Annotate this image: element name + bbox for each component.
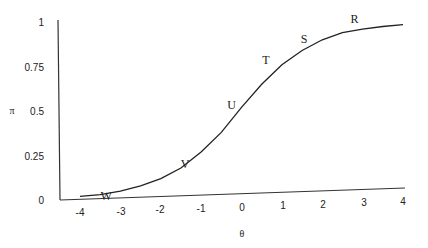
y-tick: 0.5 bbox=[30, 106, 44, 117]
x-tick: 2 bbox=[320, 199, 326, 210]
x-tick: 3 bbox=[361, 197, 367, 208]
point-label-w: W bbox=[101, 189, 113, 203]
y-axis bbox=[58, 20, 60, 200]
y-tick: 0.25 bbox=[25, 151, 45, 162]
x-tick: -1 bbox=[197, 203, 206, 214]
y-axis-label: π bbox=[9, 105, 14, 116]
y-tick-labels: 1 0.75 0.5 0.25 0 bbox=[25, 17, 45, 206]
point-label-r: R bbox=[351, 12, 359, 26]
x-tick: 1 bbox=[280, 200, 286, 211]
point-label-v: V bbox=[181, 157, 190, 171]
x-axis-label: θ bbox=[240, 228, 245, 239]
y-tick: 0 bbox=[38, 195, 44, 206]
x-tick: 4 bbox=[400, 196, 406, 207]
x-tick: 0 bbox=[239, 202, 245, 213]
y-tick: 1 bbox=[38, 17, 44, 28]
icc-chart: 1 0.75 0.5 0.25 0 -4 -3 -2 -1 0 1 2 3 4 … bbox=[0, 0, 428, 248]
point-label-s: S bbox=[301, 32, 308, 46]
x-tick-labels: -4 -3 -2 -1 0 1 2 3 4 bbox=[76, 196, 407, 218]
x-tick: -3 bbox=[117, 206, 126, 217]
x-tick: -2 bbox=[156, 204, 165, 215]
point-label-t: T bbox=[262, 53, 270, 67]
point-label-u: U bbox=[227, 98, 236, 112]
icc-curve bbox=[80, 25, 403, 197]
x-tick: -4 bbox=[76, 207, 85, 218]
y-tick: 0.75 bbox=[25, 62, 45, 73]
